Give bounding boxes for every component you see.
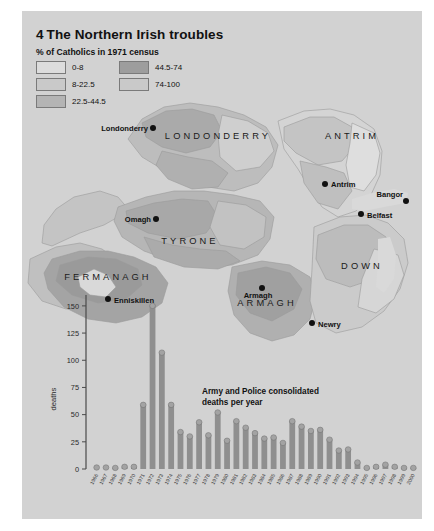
figure-page: LONDONDERRY ANTRIM TYRONE FERMANAGH ARMA… <box>0 0 434 531</box>
legend-label-0: 0-8 <box>72 63 84 72</box>
bar-1989 <box>308 428 314 469</box>
county-label-fermanagh: FERMANAGH <box>64 272 151 282</box>
legend-item-1: 8-22.5 <box>36 78 95 91</box>
bar-cap <box>224 438 230 443</box>
legend-item-2: 22.5-44.5 <box>36 95 106 108</box>
legend-label-3: 44.5-74 <box>155 63 182 72</box>
bar-1985 <box>271 435 277 469</box>
city-label-antrim: Antrim <box>331 180 356 189</box>
y-tick-label-125: 125 <box>67 329 79 338</box>
bar-cap <box>383 462 389 467</box>
legend-swatch-3 <box>119 61 149 74</box>
bar-cap <box>206 433 212 438</box>
bar-body <box>140 405 146 469</box>
bar-cap <box>112 465 118 470</box>
y-tick-label-25: 25 <box>71 438 79 447</box>
bar-cap <box>178 429 184 434</box>
legend-swatch-1 <box>36 78 66 91</box>
bar-body <box>299 427 305 469</box>
figure-number: 4 <box>36 27 44 42</box>
legend-item-0: 0-8 <box>36 61 84 74</box>
bar-cap <box>392 464 398 469</box>
bar-body <box>187 436 193 469</box>
legend-swatch-4 <box>119 78 149 91</box>
bar-cap <box>280 440 286 445</box>
bar-1997 <box>383 462 389 469</box>
bar-cap <box>150 303 156 308</box>
legend-item-3: 44.5-74 <box>119 61 182 74</box>
legend-swatch-2 <box>36 95 66 108</box>
chart-annotation-line1: Army and Police consolidated <box>202 387 319 396</box>
bar-cap <box>215 410 221 415</box>
bar-1973 <box>159 350 165 469</box>
city-label-omagh: Omagh <box>125 215 152 224</box>
bar-1974 <box>168 402 174 469</box>
bar-body <box>178 432 184 469</box>
bar-body <box>327 440 333 469</box>
bar-body <box>308 431 314 469</box>
bar-cap <box>243 425 249 430</box>
bar-1995 <box>364 465 370 470</box>
bar-body <box>271 437 277 469</box>
city-dot-bangor <box>403 198 409 204</box>
bar-cap <box>317 427 323 432</box>
bar-1976 <box>187 434 193 469</box>
bar-1971 <box>140 402 146 469</box>
bar-body <box>159 353 165 469</box>
bar-1986 <box>280 440 286 469</box>
legend-title: % of Catholics in 1971 census <box>36 47 159 57</box>
bar-body <box>252 433 258 469</box>
bar-1970 <box>131 464 137 469</box>
bar-1988 <box>299 424 305 469</box>
county-label-londonderry: LONDONDERRY <box>165 131 271 141</box>
y-tick-label-50: 50 <box>71 410 79 419</box>
bar-cap <box>401 465 407 470</box>
city-dot-omagh <box>153 216 159 222</box>
x-axis-year-labels: 1966196719681969197019711972197319741975… <box>89 473 416 486</box>
city-label-bangor: Bangor <box>376 190 403 199</box>
county-label-tyrone: TYRONE <box>161 236 218 246</box>
bar-1978 <box>206 433 212 469</box>
city-label-londonderry: Londonderry <box>101 124 149 133</box>
bar-cap <box>140 402 146 407</box>
bar-cap <box>299 424 305 429</box>
bar-cap <box>94 465 100 470</box>
legend-label-4: 74-100 <box>155 80 180 89</box>
bar-body <box>261 439 267 469</box>
bar-body <box>280 443 286 469</box>
bar-body <box>196 422 202 469</box>
deaths-per-year-bar-chart: 0255075100125150 deaths 1966196719681969… <box>30 287 422 519</box>
bar-cap <box>196 419 202 424</box>
bar-1966 <box>94 465 100 470</box>
bar-1980 <box>224 438 230 469</box>
county-label-antrim: ANTRIM <box>325 131 379 141</box>
bar-1968 <box>112 465 118 470</box>
y-axis-ticks: 0255075100125150 <box>67 302 86 474</box>
bar-cap <box>131 464 137 469</box>
bar-cap <box>168 402 174 407</box>
bar-body <box>289 421 295 469</box>
bar-cap <box>289 418 295 423</box>
bar-cap <box>336 448 342 453</box>
legend-label-2: 22.5-44.5 <box>72 97 106 106</box>
bar-1984 <box>261 436 267 469</box>
bar-cap <box>373 464 379 469</box>
y-tick-label-0: 0 <box>75 465 79 474</box>
bar-cap <box>122 464 128 469</box>
bar-body <box>168 405 174 469</box>
legend-swatch-0 <box>36 61 66 74</box>
city-dot-belfast <box>358 211 364 217</box>
bar-body <box>206 435 212 469</box>
bar-cap <box>345 447 351 452</box>
bar-1987 <box>289 418 295 469</box>
chart-axes: 0255075100125150 deaths <box>49 295 86 474</box>
bar-1993 <box>345 447 351 469</box>
bar-body <box>150 306 156 469</box>
bar-2000 <box>410 465 416 470</box>
bar-body <box>243 428 249 469</box>
figure-plate: LONDONDERRY ANTRIM TYRONE FERMANAGH ARMA… <box>22 11 422 519</box>
bar-cap <box>364 465 370 470</box>
bar-body <box>233 421 239 469</box>
bar-1972 <box>150 303 156 469</box>
bar-cap <box>103 465 109 470</box>
